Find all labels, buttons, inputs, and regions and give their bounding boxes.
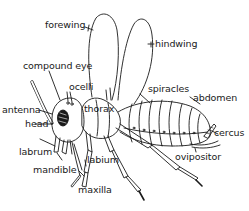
label-labium: labium	[87, 155, 119, 165]
label-forewing: forewing	[45, 20, 85, 30]
label-cercus: cercus	[214, 128, 244, 138]
ovipositor-shape	[190, 141, 220, 148]
label-antenna: antenna	[2, 105, 41, 115]
label-hindwing: hindwing	[155, 39, 197, 49]
label-ovipositor: ovipositor	[175, 152, 221, 162]
label-labrum: labrum	[19, 147, 52, 157]
abdomen-shape	[118, 101, 210, 146]
label-compound-eye: compound eye	[23, 61, 92, 71]
insect-anatomy-diagram: forewing hindwing compound eye ocelli an…	[0, 0, 249, 211]
label-mandible: mandible	[33, 165, 76, 175]
label-spiracles: spiracles	[148, 84, 189, 94]
label-head: head	[25, 119, 48, 129]
label-thorax: thorax	[84, 104, 114, 114]
label-maxilla: maxilla	[78, 185, 112, 195]
label-abdomen: abdomen	[193, 93, 237, 103]
label-ocelli: ocelli	[69, 82, 93, 92]
